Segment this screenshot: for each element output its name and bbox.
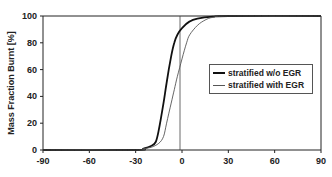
- y-axis-title: Mass Fraction Burnt [%]: [6, 31, 16, 135]
- y-axis-ticks: 020406080100: [22, 11, 43, 155]
- x-tick-label: 0: [179, 156, 184, 166]
- legend-item-with-egr: stratified with EGR: [213, 79, 309, 91]
- y-tick-label: 100: [22, 11, 37, 21]
- y-tick-label: 60: [27, 65, 37, 75]
- x-tick-label: 30: [223, 156, 233, 166]
- x-tick-label: 90: [316, 156, 326, 166]
- legend: stratified w/o EGR stratified with EGR: [209, 64, 313, 94]
- x-tick-label: -30: [129, 156, 142, 166]
- legend-swatch-thin: [213, 85, 225, 86]
- legend-label: stratified with EGR: [228, 80, 304, 90]
- y-tick-label: 80: [27, 38, 37, 48]
- y-tick-label: 0: [32, 145, 37, 155]
- x-tick-label: -60: [83, 156, 96, 166]
- x-tick-label: -90: [36, 156, 49, 166]
- legend-label: stratified w/o EGR: [228, 68, 301, 78]
- legend-swatch-thick: [213, 72, 225, 74]
- legend-item-without-egr: stratified w/o EGR: [213, 67, 309, 79]
- y-tick-label: 20: [27, 118, 37, 128]
- x-tick-label: 60: [270, 156, 280, 166]
- x-axis-ticks: -90-60-300306090: [36, 150, 326, 166]
- y-tick-label: 40: [27, 91, 37, 101]
